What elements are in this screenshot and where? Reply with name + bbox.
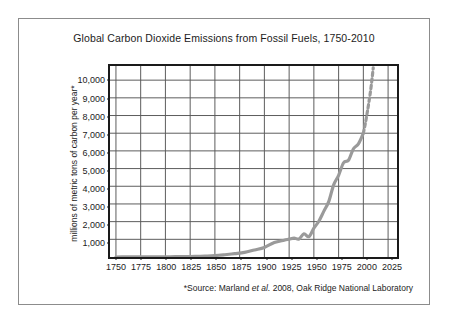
x-tick-label: 1750 — [106, 262, 126, 272]
y-tick-mark — [107, 116, 110, 117]
x-tick-mark — [216, 257, 217, 260]
x-tick-label: 1775 — [131, 262, 151, 272]
y-tick-mark — [107, 206, 110, 207]
source-note-lead: *Source: Marland — [184, 283, 252, 293]
y-tick-mark — [107, 188, 110, 189]
y-tick-label: 10,000 — [77, 75, 105, 85]
x-tick-label: 2025 — [382, 262, 402, 272]
y-tick-label: 3,000 — [82, 202, 105, 212]
x-tick-label: 1950 — [307, 262, 327, 272]
chart-figure-frame: Global Carbon Dioxide Emissions from Fos… — [18, 18, 430, 305]
x-tick-label: 1875 — [231, 262, 251, 272]
x-tick-label: 2000 — [357, 262, 377, 272]
y-tick-label: 5,000 — [82, 166, 105, 176]
x-tick-mark — [266, 257, 267, 260]
y-tick-label: 9,000 — [82, 94, 105, 104]
source-note-etal: et al. — [252, 283, 270, 293]
y-tick-label: 1,000 — [82, 238, 105, 248]
plot-inner — [110, 66, 397, 257]
source-note-tail: 2008, Oak Ridge National Laboratory — [270, 283, 413, 293]
plot-area: millions of metric tons of carbon per ye… — [108, 64, 399, 259]
y-tick-mark — [107, 170, 110, 171]
x-tick-mark — [241, 257, 242, 260]
x-tick-label: 1800 — [156, 262, 176, 272]
x-tick-label: 1925 — [282, 262, 302, 272]
y-tick-mark — [107, 98, 110, 99]
x-tick-mark — [141, 257, 142, 260]
x-tick-mark — [366, 257, 367, 260]
x-tick-mark — [291, 257, 292, 260]
y-tick-label: 6,000 — [82, 148, 105, 158]
chart-title: Global Carbon Dioxide Emissions from Fos… — [19, 32, 429, 44]
x-tick-label: 1975 — [332, 262, 352, 272]
y-tick-label: 4,000 — [82, 184, 105, 194]
x-tick-label: 1850 — [206, 262, 226, 272]
y-tick-mark — [107, 224, 110, 225]
y-tick-mark — [107, 134, 110, 135]
x-tick-mark — [166, 257, 167, 260]
y-axis-title: millions of metric tons of carbon per ye… — [67, 66, 81, 261]
y-tick-mark — [107, 80, 110, 81]
x-tick-mark — [391, 257, 392, 260]
source-footnote: *Source: Marland et al. 2008, Oak Ridge … — [184, 283, 413, 293]
y-tick-label: 8,000 — [82, 112, 105, 122]
x-tick-label: 1900 — [257, 262, 277, 272]
y-tick-mark — [107, 242, 110, 243]
y-tick-label: 7,000 — [82, 130, 105, 140]
x-tick-label: 1825 — [181, 262, 201, 272]
y-tick-mark — [107, 152, 110, 153]
x-tick-mark — [116, 257, 117, 260]
x-tick-mark — [316, 257, 317, 260]
y-tick-label: 2,000 — [82, 220, 105, 230]
x-tick-mark — [341, 257, 342, 260]
x-tick-mark — [191, 257, 192, 260]
data-series-layer — [110, 66, 397, 257]
